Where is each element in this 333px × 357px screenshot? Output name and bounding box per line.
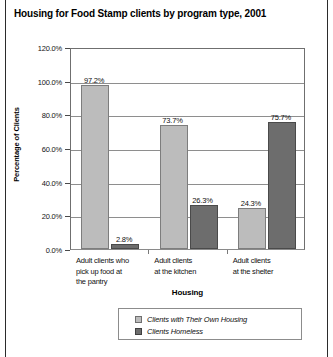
category-tick [148, 250, 149, 254]
category-label-line: at the shelter [233, 267, 303, 278]
x-axis-title: Housing [70, 288, 305, 297]
y-tick-label: 0.0% [18, 246, 62, 255]
page-border-right [327, 0, 328, 357]
category-label-line: Adult clients who [76, 256, 146, 267]
legend-item: Clients with Their Own Housing [135, 313, 301, 325]
category-label-line: the pantry [76, 277, 146, 288]
category-label-line: Adult clients [233, 256, 303, 267]
bar-homeless [268, 122, 296, 249]
bar-own-housing [238, 208, 266, 249]
legend-swatch-icon [135, 328, 142, 335]
category-label: Adult clients whopick up food atthe pant… [76, 256, 146, 288]
bar-homeless [190, 205, 218, 249]
legend-item: Clients Homeless [135, 325, 301, 337]
y-tick-label: 120.0% [18, 44, 62, 53]
bar-homeless [111, 244, 139, 249]
y-tick-label: 20.0% [18, 212, 62, 221]
y-tick-label: 100.0% [18, 78, 62, 87]
category-label-line: at the kitchen [154, 267, 224, 278]
legend-label: Clients Homeless [147, 327, 203, 336]
chart-page: Housing for Food Stamp clients by progra… [0, 0, 333, 357]
y-tick-label: 80.0% [18, 111, 62, 120]
chart-legend: Clients with Their Own HousingClients Ho… [118, 308, 302, 340]
legend-label: Clients with Their Own Housing [147, 315, 247, 324]
legend-swatch-icon [135, 316, 142, 323]
category-label-line: Adult clients [154, 256, 224, 267]
category-label: Adult clientsat the kitchen [154, 256, 224, 277]
bar-value-label: 26.3% [183, 196, 223, 205]
chart-title: Housing for Food Stamp clients by progra… [14, 8, 319, 20]
y-tick-label: 60.0% [18, 145, 62, 154]
bar-value-label: 2.8% [104, 235, 144, 244]
category-tick [227, 250, 228, 254]
bar-value-label: 73.7% [153, 116, 193, 125]
bar-own-housing [160, 125, 188, 249]
bar-value-label: 24.3% [231, 199, 271, 208]
y-tick-mark [65, 250, 70, 251]
bar-value-label: 97.2% [74, 76, 114, 85]
bar-own-housing [81, 85, 109, 249]
category-label: Adult clientsat the shelter [233, 256, 303, 277]
y-tick-label: 40.0% [18, 179, 62, 188]
bar-value-label: 75.7% [261, 113, 301, 122]
page-border-left [5, 0, 6, 357]
category-label-line: pick up food at [76, 267, 146, 278]
